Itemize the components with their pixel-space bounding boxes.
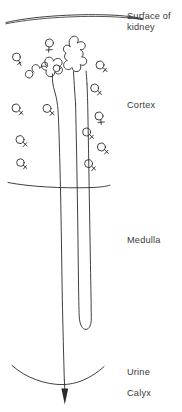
nephron-tubule [25, 36, 91, 380]
glomerulus-symbol [96, 61, 107, 72]
label-urine: Urine [127, 367, 150, 377]
glomerulus-symbol [45, 39, 53, 52]
calyx-boundary-arc [12, 366, 104, 385]
glomerulus-symbol [16, 136, 27, 147]
kidney-nephron-diagram: Surface of kidney Cortex Medulla Urine C… [0, 0, 182, 412]
diagram-canvas: Surface of kidney Cortex Medulla Urine C… [0, 0, 182, 412]
glomerulus-symbol [85, 160, 96, 171]
label-calyx: Calyx [127, 388, 151, 398]
cortex-medulla-boundary [8, 183, 110, 188]
label-medulla: Medulla [127, 235, 161, 245]
label-surface-of-kidney-line2: kidney [127, 22, 155, 32]
kidney-surface-line [6, 15, 143, 24]
glomerulus-symbol [43, 104, 54, 115]
glomerulus-symbol [13, 53, 22, 65]
urine-arrow [61, 380, 68, 405]
glomerulus-symbol [91, 84, 102, 95]
glomerulus-symbol [95, 112, 104, 125]
label-surface-of-kidney-line1: Surface of [127, 11, 171, 21]
glomerulus-symbol [97, 143, 108, 154]
glomerulus-symbol [17, 159, 27, 169]
glomerulus-symbol [12, 104, 23, 115]
label-cortex: Cortex [127, 100, 155, 110]
